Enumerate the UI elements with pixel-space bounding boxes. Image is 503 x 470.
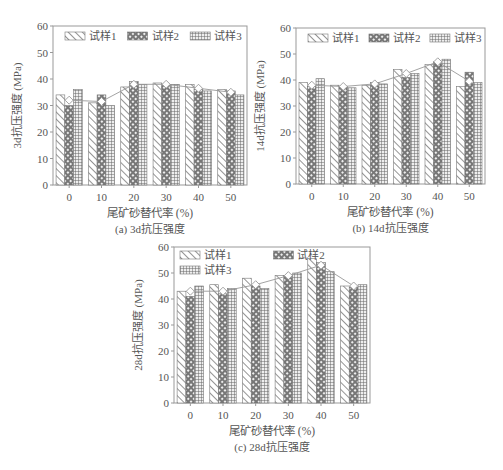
x-tick-label: 30 — [401, 190, 413, 202]
bar — [74, 90, 83, 185]
bar — [339, 87, 348, 185]
bar — [425, 64, 434, 184]
x-tick-label: 40 — [432, 190, 444, 202]
y-tick-label: 60 — [37, 20, 49, 32]
bar — [226, 91, 235, 185]
legend-swatch — [128, 32, 148, 40]
bar — [162, 84, 171, 185]
bar — [219, 294, 228, 403]
bar — [65, 106, 74, 186]
bar — [433, 62, 442, 184]
bar — [358, 285, 367, 403]
chart-panel-c: 010203040506001020304050试样1试样2试样328d抗压强度… — [126, 232, 378, 470]
bar — [402, 77, 411, 184]
legend: 试样1试样2试样3 — [180, 248, 325, 276]
x-tick-label: 0 — [66, 191, 72, 203]
bar — [171, 84, 180, 185]
bar — [186, 296, 195, 403]
y-tick-label: 0 — [43, 179, 49, 191]
x-tick-label: 40 — [193, 191, 205, 203]
x-tick-label: 20 — [369, 190, 381, 202]
y-tick-label: 10 — [158, 371, 170, 383]
y-axis-label: 28d抗压强度 (MPa) — [131, 279, 145, 371]
legend-swatch — [180, 266, 200, 274]
bar — [275, 276, 284, 403]
bar — [194, 90, 203, 185]
bar — [370, 83, 379, 184]
bar — [210, 285, 219, 403]
legend-label: 试样2 — [152, 29, 180, 42]
legend-label: 试样1 — [204, 248, 232, 261]
bar — [330, 85, 339, 184]
chart-panel-a: 010203040506001020304050试样1试样2试样33d抗压强度 … — [0, 0, 252, 235]
x-tick-label: 0 — [188, 409, 194, 421]
y-tick-label: 10 — [37, 153, 49, 165]
bar — [129, 82, 138, 185]
bar — [465, 72, 474, 184]
bar — [177, 291, 186, 403]
legend: 试样1试样2试样3 — [308, 31, 482, 44]
x-tick-label: 30 — [161, 191, 173, 203]
y-tick-label: 30 — [280, 100, 292, 112]
y-tick-label: 40 — [280, 74, 292, 86]
bar — [340, 286, 349, 403]
legend-label: 试样1 — [332, 31, 360, 44]
chart-3d-strength: 010203040506001020304050试样1试样2试样33d抗压强度 … — [0, 0, 252, 235]
bar — [106, 106, 115, 186]
diamond-marker-icon — [402, 70, 410, 78]
y-tick-label: 50 — [158, 267, 170, 279]
legend-swatch — [65, 32, 85, 40]
bar — [121, 87, 130, 185]
y-tick-label: 40 — [158, 293, 170, 305]
y-tick-label: 60 — [280, 22, 292, 34]
bar — [227, 289, 236, 403]
bar — [138, 84, 147, 185]
legend-label: 试样3 — [204, 263, 232, 276]
y-axis-label: 3d抗压强度 (MPa) — [10, 62, 24, 148]
y-axis-label: 14d抗压强度 (MPa) — [253, 60, 267, 152]
legend-label: 试样1 — [89, 29, 117, 42]
bar — [242, 278, 251, 403]
x-tick-label: 20 — [250, 409, 262, 421]
chart-caption: (c) 28d抗压强度 — [234, 440, 309, 454]
bar — [153, 83, 162, 185]
legend-label: 试样2 — [393, 31, 421, 44]
x-tick-label: 10 — [96, 191, 108, 203]
bar — [88, 103, 97, 185]
x-axis-label: 尾矿砂替代率 (%) — [229, 424, 315, 438]
bar — [325, 272, 334, 403]
bar — [56, 95, 65, 185]
bar — [308, 259, 317, 403]
bar — [251, 286, 260, 403]
x-axis-label: 尾矿砂替代率 (%) — [347, 205, 433, 219]
bar — [284, 276, 293, 403]
legend-swatch — [190, 32, 210, 40]
y-tick-label: 30 — [37, 100, 49, 112]
x-tick-label: 10 — [338, 190, 350, 202]
y-tick-label: 60 — [158, 241, 170, 253]
bar — [307, 87, 316, 185]
bar — [195, 286, 204, 403]
chart-14d-strength: 010203040506001020304050试样1试样2试样314d抗压强度… — [252, 0, 503, 235]
x-tick-label: 50 — [348, 409, 360, 421]
bar — [393, 70, 402, 184]
bar — [203, 91, 212, 185]
x-tick-label: 10 — [218, 409, 230, 421]
bar — [218, 90, 227, 185]
legend-label: 试样3 — [214, 29, 242, 42]
legend-swatch — [430, 34, 450, 42]
diamond-marker-icon — [65, 96, 73, 104]
bar — [260, 289, 269, 403]
legend-swatch — [369, 34, 389, 42]
y-tick-label: 30 — [158, 319, 170, 331]
x-tick-label: 40 — [316, 409, 328, 421]
bar — [349, 287, 358, 403]
y-tick-label: 10 — [280, 152, 292, 164]
y-tick-label: 0 — [286, 178, 292, 190]
legend: 试样1试样2试样3 — [65, 29, 242, 42]
bar — [317, 263, 326, 403]
y-tick-label: 20 — [158, 345, 170, 357]
y-tick-label: 50 — [280, 48, 292, 60]
y-tick-label: 0 — [164, 397, 170, 409]
legend-label: 试样3 — [454, 31, 482, 44]
